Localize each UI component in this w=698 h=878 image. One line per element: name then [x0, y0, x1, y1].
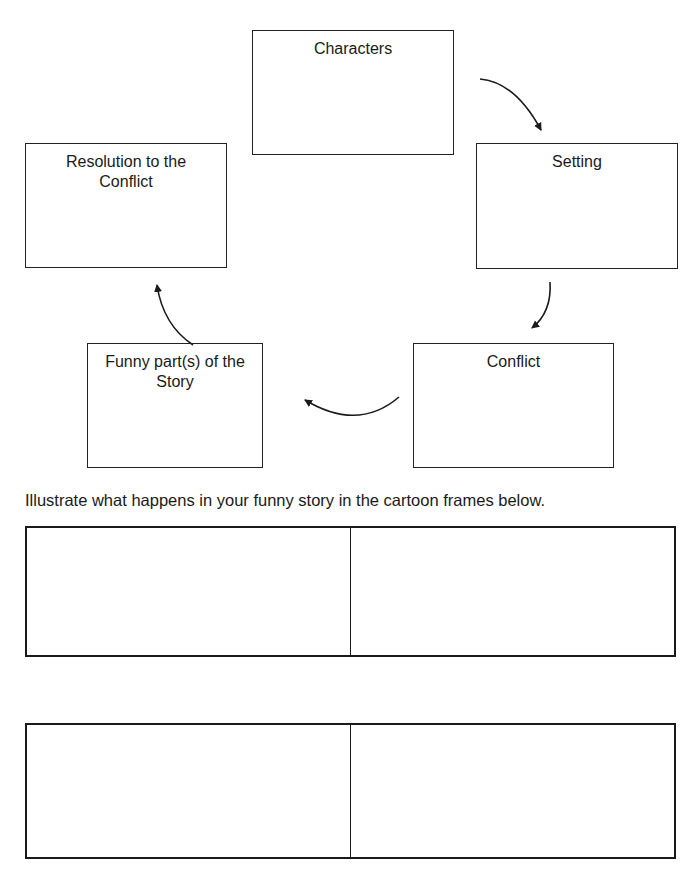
- cartoon-frame-row-1: [25, 526, 676, 657]
- instructions-text: Illustrate what happens in your funny st…: [25, 491, 545, 510]
- cartoon-frame-row-2: [25, 723, 676, 859]
- arrow-characters-to-setting: [480, 79, 541, 130]
- cartoon-frame-4[interactable]: [350, 725, 674, 857]
- arrow-setting-to-conflict: [532, 282, 550, 328]
- arrow-conflict-to-funny: [305, 397, 399, 415]
- arrow-funny-to-resolution: [157, 285, 193, 345]
- cartoon-frame-2[interactable]: [350, 528, 674, 655]
- cartoon-frame-1[interactable]: [27, 528, 350, 655]
- flow-arrows: [0, 0, 698, 480]
- cartoon-frame-3[interactable]: [27, 725, 350, 857]
